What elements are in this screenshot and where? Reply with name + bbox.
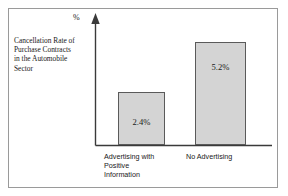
bar-no-advertising: 5.2% [195,42,246,145]
category-1-line-1: Advertising with [104,152,178,161]
bar-value-label-2: 5.2% [196,62,245,72]
bar-value-label-1: 2.4% [119,117,164,127]
x-axis-category-label-2: No Advertising [186,152,266,161]
y-axis-arrowhead [91,13,99,24]
category-1-line-3: Information [104,170,178,179]
category-1-line-2: Positive [104,161,178,170]
plot-area: % 2.4% 5.2% Advertising with Positive In… [0,0,288,196]
figure-container: Cancellation Rate of Purchase Contracts … [0,0,288,196]
category-2-line-1: No Advertising [186,152,266,161]
bar-advertising-with-positive-information: 2.4% [118,92,165,145]
x-axis-category-label-1: Advertising with Positive Information [104,152,178,179]
